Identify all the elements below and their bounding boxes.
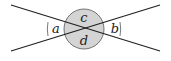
label-b: b [111, 21, 119, 36]
label-c: c [80, 10, 88, 25]
label-d: d [80, 33, 88, 48]
label-a: a [52, 21, 60, 36]
angle-arc-a [47, 22, 48, 36]
intersecting-lines-diagram: c d a b [0, 0, 171, 61]
angle-arc-b [120, 22, 121, 36]
